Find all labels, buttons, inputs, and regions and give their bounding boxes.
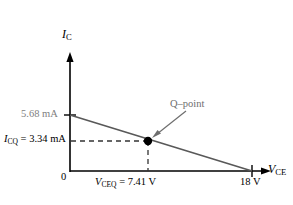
vceq-subscript: CEQ	[101, 180, 116, 189]
vceq-label: VCEQ = 7.41 V	[95, 177, 156, 188]
vceq-value: = 7.41 V	[117, 176, 157, 187]
y-axis	[66, 52, 73, 172]
q-point-marker	[144, 137, 152, 145]
ic-saturation-label: 5.68 mA	[21, 109, 58, 120]
load-line-plot	[0, 0, 293, 205]
origin-label: 0	[61, 172, 66, 183]
icq-label: ICQ = 3.34 mA	[4, 134, 66, 145]
x-axis	[70, 167, 271, 174]
y-axis-subscript: C	[66, 32, 72, 42]
icq-symbol: I	[4, 133, 8, 144]
load-line-figure: IC VCE 5.68 mA ICQ = 3.34 mA VCEQ = 7.41…	[0, 0, 293, 205]
icq-value: = 3.34 mA	[18, 133, 66, 144]
x-axis-label: VCE	[268, 163, 286, 175]
q-point-leader-arrow	[152, 111, 186, 138]
x-axis-subscript: CE	[275, 167, 286, 177]
y-axis-label: IC	[62, 28, 72, 40]
vce-cutoff-label: 18 V	[240, 177, 261, 188]
dc-load-line	[70, 115, 252, 171]
icq-subscript: CQ	[8, 137, 18, 146]
q-point-label: Q–point	[170, 99, 204, 110]
